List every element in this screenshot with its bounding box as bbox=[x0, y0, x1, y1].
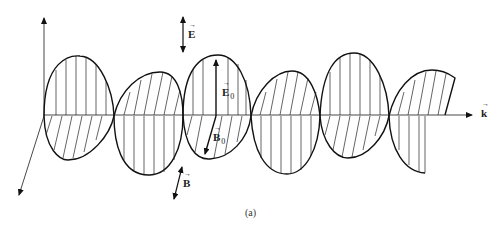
oblique-axis bbox=[19, 116, 44, 195]
b-field-label: B bbox=[183, 178, 190, 189]
hatch-lines bbox=[46, 54, 446, 175]
propagation-k-label: k bbox=[481, 108, 487, 119]
b0-amplitude-label: B0 bbox=[213, 132, 225, 146]
e-field-wave bbox=[44, 53, 425, 175]
em-wave-diagram bbox=[0, 0, 503, 230]
figure-caption: (a) bbox=[245, 207, 256, 218]
e0-amplitude-label: E0 bbox=[222, 87, 234, 101]
e-field-label: E bbox=[188, 29, 195, 40]
b-field-indicator-arrow bbox=[178, 167, 182, 183]
